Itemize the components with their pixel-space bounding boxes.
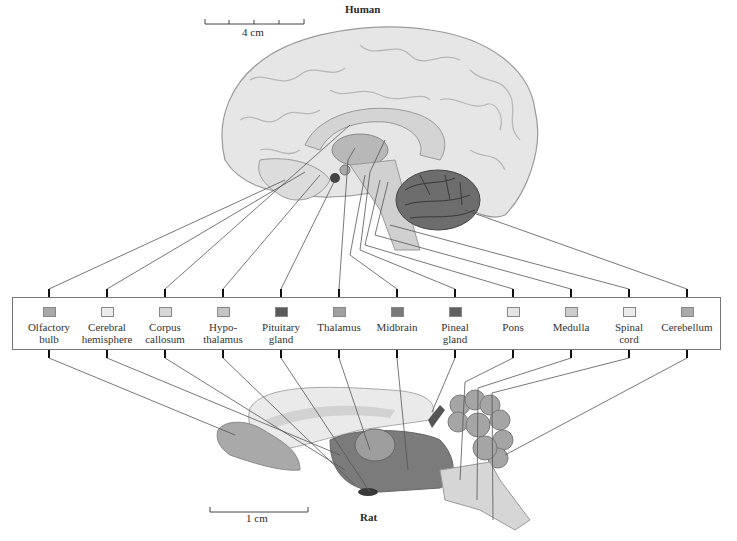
legend-label: Corpus bbox=[135, 321, 195, 333]
swatch-cerebral-hemisphere bbox=[101, 307, 114, 317]
legend-item-olfactory-bulb: Olfactory bulb bbox=[19, 298, 79, 345]
legend-label-line2: hemisphere bbox=[77, 333, 137, 345]
rat-brain-illustration bbox=[217, 387, 530, 530]
swatch-olfactory-bulb bbox=[43, 307, 56, 317]
legend-label-line2: thalamus bbox=[193, 333, 253, 345]
legend-label: Spinal bbox=[599, 321, 659, 333]
legend-label-line2: gland bbox=[251, 333, 311, 345]
legend-item-pineal-gland: Pineal gland bbox=[425, 298, 485, 345]
legend-label-line2: cord bbox=[599, 333, 659, 345]
legend-label: Cerebral bbox=[77, 321, 137, 333]
swatch-hypothalamus bbox=[217, 307, 230, 317]
brain-comparison-artwork bbox=[0, 0, 737, 541]
legend-item-corpus-callosum: Corpus callosum bbox=[135, 298, 195, 345]
legend-label: Pons bbox=[483, 321, 543, 333]
swatch-cerebellum bbox=[681, 307, 694, 317]
legend-label: Olfactory bbox=[19, 321, 79, 333]
human-title: Human bbox=[345, 3, 380, 15]
legend-label: Medulla bbox=[541, 321, 601, 333]
legend-item-midbrain: Midbrain bbox=[367, 298, 427, 333]
legend-label: Cerebellum bbox=[657, 321, 717, 333]
swatch-corpus-callosum bbox=[159, 307, 172, 317]
legend-label: Midbrain bbox=[367, 321, 427, 333]
swatch-pineal-gland bbox=[449, 307, 462, 317]
legend-bottom-ticks bbox=[49, 350, 687, 358]
legend-label-line2: bulb bbox=[19, 333, 79, 345]
rat-title: Rat bbox=[360, 511, 377, 523]
swatch-pituitary-gland bbox=[275, 307, 288, 317]
legend-item-thalamus: Thalamus bbox=[309, 298, 369, 333]
legend-item-spinal-cord: Spinal cord bbox=[599, 298, 659, 345]
swatch-medulla bbox=[565, 307, 578, 317]
legend-item-medulla: Medulla bbox=[541, 298, 601, 333]
legend-label-line2: callosum bbox=[135, 333, 195, 345]
legend-label-line2: gland bbox=[425, 333, 485, 345]
legend-label: Pineal bbox=[425, 321, 485, 333]
swatch-spinal-cord bbox=[623, 307, 636, 317]
human-scale-bar bbox=[205, 19, 304, 24]
swatch-thalamus bbox=[333, 307, 346, 317]
legend-item-pituitary-gland: Pituitary gland bbox=[251, 298, 311, 345]
rat-scale-label: 1 cm bbox=[246, 512, 268, 524]
human-scale-label: 4 cm bbox=[242, 26, 264, 38]
legend-item-cerebellum: Cerebellum bbox=[657, 298, 717, 333]
legend-label: Hypo- bbox=[193, 321, 253, 333]
legend-item-hypothalamus: Hypo- thalamus bbox=[193, 298, 253, 345]
swatch-pons bbox=[507, 307, 520, 317]
brain-region-legend: Olfactory bulb Cerebral hemisphere Corpu… bbox=[12, 297, 721, 350]
legend-item-cerebral-hemisphere: Cerebral hemisphere bbox=[77, 298, 137, 345]
legend-top-ticks bbox=[49, 289, 687, 297]
legend-label: Pituitary bbox=[251, 321, 311, 333]
swatch-midbrain bbox=[391, 307, 404, 317]
legend-item-pons: Pons bbox=[483, 298, 543, 333]
legend-label: Thalamus bbox=[309, 321, 369, 333]
